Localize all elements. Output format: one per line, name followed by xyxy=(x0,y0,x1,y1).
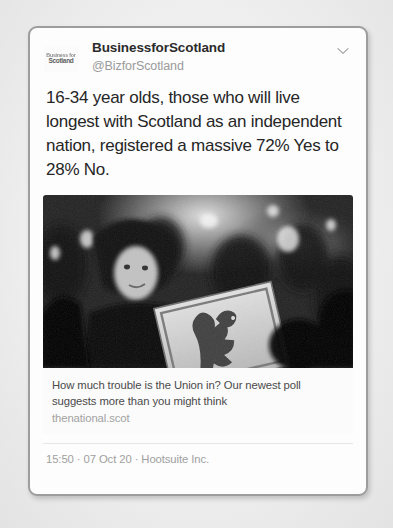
tweet-footer: 15:50 · 07 Oct 20 · Hootsuite Inc. xyxy=(30,444,366,465)
tweet-text: 16-34 year olds, those who will live lon… xyxy=(30,76,366,185)
account-identity: BusinessforScotland @BizforScotland xyxy=(92,40,225,76)
account-display-name[interactable]: BusinessforScotland xyxy=(92,40,225,57)
account-handle[interactable]: @BizforScotland xyxy=(92,57,225,76)
tweet-header: Business for Scotland BusinessforScotlan… xyxy=(30,28,366,76)
link-preview-domain[interactable]: thenational.scot xyxy=(52,412,344,424)
link-preview-meta: How much trouble is the Union in? Our ne… xyxy=(43,368,353,434)
avatar-logo-line1: Business for xyxy=(46,53,75,58)
screenshot-page: Business for Scotland BusinessforScotlan… xyxy=(0,0,393,528)
link-preview-card[interactable]: How much trouble is the Union in? Our ne… xyxy=(43,195,353,434)
tweet-card[interactable]: Business for Scotland BusinessforScotlan… xyxy=(28,26,368,496)
link-preview-image[interactable] xyxy=(43,195,353,368)
link-preview-title: How much trouble is the Union in? Our ne… xyxy=(52,377,344,409)
avatar[interactable]: Business for Scotland xyxy=(44,46,78,72)
chevron-down-icon[interactable] xyxy=(336,46,350,56)
avatar-logo-line2: Scotland xyxy=(48,58,73,65)
